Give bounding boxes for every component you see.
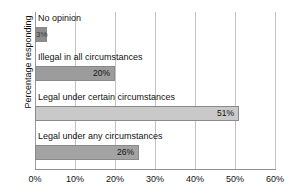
x-tick-label: 50% <box>217 174 253 184</box>
bar-group: No opinion3% <box>35 12 275 51</box>
x-tick-label: 30% <box>137 174 173 184</box>
gridline-60pct <box>275 12 276 170</box>
bar-group: Illegal in all circumstances20% <box>35 51 275 90</box>
bar-value-label: 51% <box>217 109 238 118</box>
x-tick-label: 60% <box>257 174 293 184</box>
bar-value-label: 26% <box>117 148 138 157</box>
x-tick-label: 10% <box>57 174 93 184</box>
bar-category-label: Legal under any circumstances <box>38 131 163 142</box>
plot-area: No opinion3%Illegal in all circumstances… <box>35 12 275 170</box>
bar[interactable]: 26% <box>35 145 139 160</box>
x-tick-label: 0% <box>17 174 53 184</box>
bar[interactable]: 20% <box>35 66 115 81</box>
x-tick-label: 20% <box>97 174 133 184</box>
bar-value-label: 3% <box>36 30 48 39</box>
bar-category-label: Illegal in all circumstances <box>38 52 143 63</box>
x-tick-label: 40% <box>177 174 213 184</box>
y-axis-title: Percentage responding <box>23 0 33 142</box>
bar-category-label: No opinion <box>38 13 81 24</box>
bar-category-label: Legal under certain circumstances <box>38 92 175 103</box>
bar-group: Legal under any circumstances26% <box>35 130 275 169</box>
bar[interactable]: 51% <box>35 106 239 121</box>
bar-chart: Percentage responding No opinion3%Illega… <box>0 0 298 196</box>
bar[interactable]: 3% <box>35 27 47 42</box>
bar-group: Legal under certain circumstances51% <box>35 91 275 130</box>
bar-value-label: 20% <box>93 69 114 78</box>
x-axis-line <box>35 169 276 170</box>
